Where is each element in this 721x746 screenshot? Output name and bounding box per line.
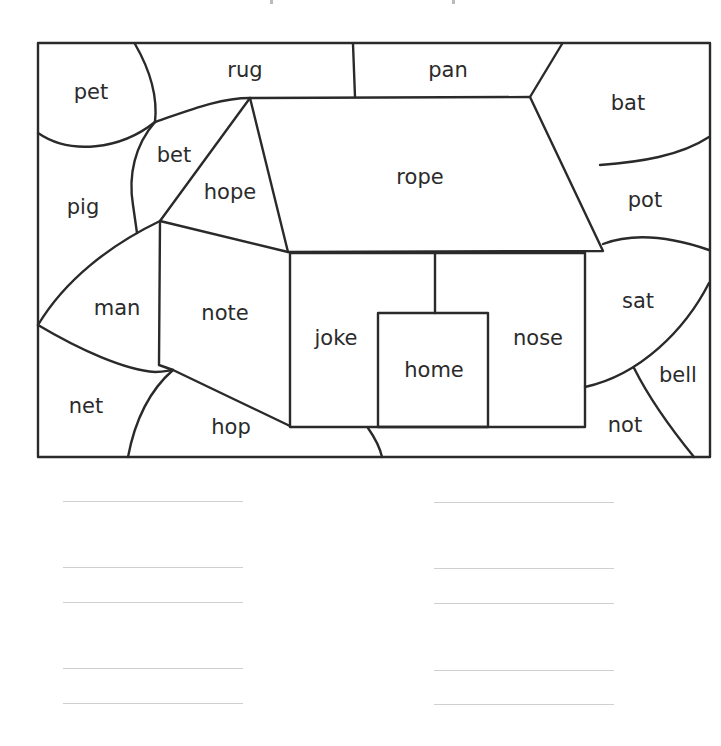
region-word: pot (628, 188, 662, 212)
region-word: hope (204, 180, 256, 204)
answer-line-left-3[interactable] (63, 602, 243, 603)
divider-net-hop (128, 370, 173, 457)
divider-bet-pig (131, 122, 155, 233)
region-word: net (69, 394, 103, 418)
divider-pan-bat (530, 44, 562, 97)
answer-line-left-5[interactable] (63, 703, 243, 704)
divider-hop-not (368, 428, 382, 457)
answer-line-right-2[interactable] (434, 568, 614, 569)
divider-man-net (38, 325, 173, 372)
region-word: bell (659, 363, 697, 387)
region-word: note (201, 301, 248, 325)
region-word: rope (396, 165, 443, 189)
region-word: pig (67, 195, 100, 219)
region-word: joke (313, 326, 357, 350)
answer-line-right-3[interactable] (434, 603, 614, 604)
region-word: hop (211, 415, 251, 439)
divider-bat-pot (600, 137, 709, 165)
word-picture-puzzle: pet rug pan bat bet hope rope pig pot ma… (0, 0, 721, 470)
region-word: man (94, 296, 141, 320)
answer-line-left-4[interactable] (63, 668, 243, 669)
region-word: bet (157, 143, 191, 167)
puzzle-frame (38, 43, 710, 457)
divider-rug-pan (353, 44, 355, 97)
region-word: sat (622, 289, 654, 313)
divider-pet-rug (135, 44, 156, 122)
region-word: pan (428, 58, 468, 82)
answer-line-left-2[interactable] (63, 567, 243, 568)
region-word: not (608, 413, 642, 437)
divider-pot-sat (603, 237, 709, 250)
answer-line-left-1[interactable] (63, 501, 243, 502)
region-word: nose (513, 326, 563, 350)
region-word: rug (227, 58, 262, 82)
answer-line-right-1[interactable] (434, 502, 614, 503)
region-word: pet (74, 80, 108, 104)
region-word: home (404, 358, 464, 382)
answer-line-right-4[interactable] (434, 670, 614, 671)
answer-line-right-5[interactable] (434, 704, 614, 705)
divider-pet-pig (38, 122, 155, 147)
region-word: bat (611, 91, 645, 115)
